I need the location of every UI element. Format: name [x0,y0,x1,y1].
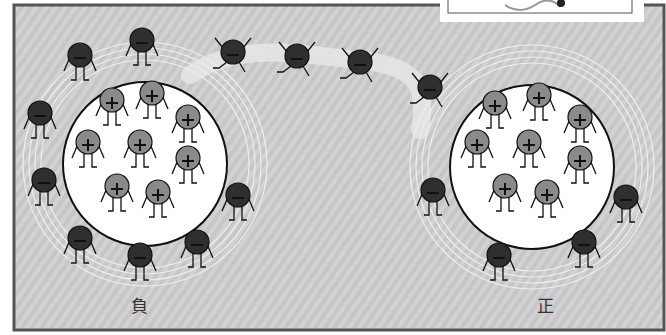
electron-transfer-illustration [0,0,666,335]
nucleus [63,82,227,246]
positive-label: 正 [537,292,554,317]
negative-label: 負 [131,292,148,317]
